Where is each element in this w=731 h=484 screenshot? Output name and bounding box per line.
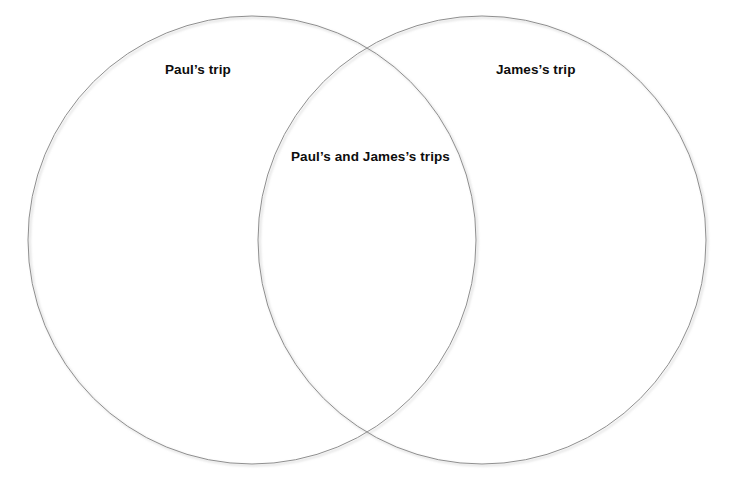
set-circle-right [258, 16, 706, 464]
venn-circles-svg [0, 0, 731, 484]
set-label-left: Paul’s trip [165, 62, 231, 78]
intersection-label: Paul’s and James’s trips [291, 149, 450, 165]
set-label-right: James’s trip [496, 62, 576, 78]
venn-diagram-canvas: Paul’s trip James’s trip Paul’s and Jame… [0, 0, 731, 484]
set-circle-left [28, 16, 476, 464]
